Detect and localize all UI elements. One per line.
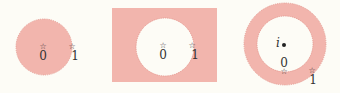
point-label-1: 1 — [309, 73, 317, 87]
star-point-0-icon: ☆ — [280, 67, 287, 76]
point-label-0: 0 — [159, 48, 167, 62]
panel-disk: ☆ 0 ☆ 1 — [16, 19, 79, 75]
center-label-i: i — [276, 36, 280, 50]
point-label-0: 0 — [39, 49, 47, 63]
center-point-dot — [282, 43, 286, 47]
panel-disk-complement: ☆ 0 ☆ 1 — [112, 8, 217, 82]
panel-annulus: i 0 ☆ ☆ 1 — [244, 3, 326, 87]
point-label-1: 1 — [71, 49, 79, 63]
diagram-canvas: ☆ 0 ☆ 1 ☆ 0 ☆ 1 i 0 ☆ ☆ 1 — [0, 0, 340, 93]
point-label-1: 1 — [191, 48, 199, 62]
